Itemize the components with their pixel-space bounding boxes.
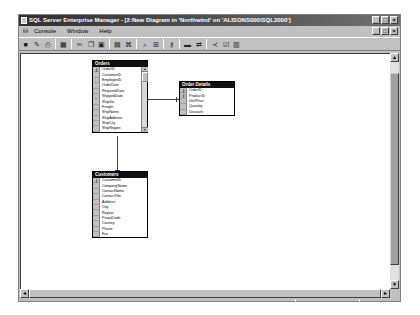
print-icon[interactable]: ⎙	[43, 40, 52, 49]
zoom-icon[interactable]: ⌕	[140, 40, 149, 49]
table-customers[interactable]: Customers⚷CustomerIDCompanyNameContactNa…	[92, 171, 148, 238]
table-view-icon[interactable]: ▬	[183, 40, 192, 49]
column-name: OrderDate	[102, 83, 119, 88]
column-name: OrderID	[189, 88, 202, 93]
column-name: CustomerID	[102, 73, 121, 78]
window-controls: _ □ ×	[372, 16, 398, 24]
table-orders[interactable]: Orders⚷OrderIDCustomerIDEmployeeIDOrderD…	[92, 60, 148, 133]
title-bar[interactable]: SQL Server Enterprise Manager - [2:New D…	[19, 15, 400, 26]
column-row[interactable]: Discount	[180, 110, 234, 115]
menu-console[interactable]: Console	[34, 26, 56, 36]
column-name: ShipVia	[102, 100, 114, 105]
table-scroll-down-button[interactable]: ▼	[142, 127, 148, 132]
menu-bar: ⛁ Console Window Help _ □ ×	[19, 26, 400, 36]
column-name: CompanyName	[102, 184, 127, 189]
column-row[interactable]: Fax	[93, 232, 147, 237]
horizontal-scroll-thumb[interactable]	[29, 289, 381, 298]
diagram-canvas[interactable]: Orders⚷OrderIDCustomerIDEmployeeIDOrderD…	[20, 53, 390, 289]
toolbar: ■✎⎙▦✂❐▣▤⌘⌕⊞⚷▬⇄≺☑▥	[19, 37, 400, 51]
column-name: RequiredDate	[102, 89, 124, 94]
table-scrollbar[interactable]: ▲▼	[141, 67, 147, 132]
menu-window[interactable]: Window	[67, 26, 88, 36]
toolbar-separator	[179, 39, 180, 49]
minimize-button[interactable]: _	[372, 16, 380, 24]
column-name: ShipRegion	[102, 126, 121, 131]
cut-icon[interactable]: ✂	[75, 40, 84, 49]
status-pane	[359, 299, 400, 302]
vertical-scrollbar[interactable]: ▲ ▼	[390, 53, 399, 289]
toolbar-separator	[71, 39, 72, 49]
scroll-right-button[interactable]: ►	[381, 289, 390, 298]
toolbar-separator	[206, 39, 207, 49]
row-selector[interactable]	[93, 232, 100, 237]
column-name: City	[102, 205, 108, 210]
column-name: Discount	[189, 110, 203, 115]
column-name: ProductID	[189, 94, 205, 99]
copy-icon[interactable]: ❐	[86, 40, 95, 49]
console-tree-icon[interactable]: ⛁	[23, 28, 31, 35]
table-order-details[interactable]: Order Details⚷OrderID⚷ProductIDUnitPrice…	[179, 81, 235, 116]
app-window: SQL Server Enterprise Manager - [2:New D…	[18, 14, 401, 302]
relationship-line-orders-customers[interactable]	[117, 136, 118, 174]
mdi-restore-button[interactable]: □	[381, 27, 389, 35]
column-name: Country	[102, 221, 115, 226]
column-name: Phone	[102, 227, 112, 232]
column-name: PostalCode	[102, 216, 121, 221]
window-title: SQL Server Enterprise Manager - [2:New D…	[29, 17, 291, 23]
column-name: ContactName	[102, 189, 124, 194]
paste-icon[interactable]: ▣	[97, 40, 106, 49]
column-list: ⚷CustomerIDCompanyNameContactNameContact…	[93, 178, 147, 237]
column-name: CustomerID	[102, 178, 121, 183]
column-name: ContactTitle	[102, 194, 121, 199]
mdi-controls: _ □ ×	[372, 27, 398, 35]
close-button[interactable]: ×	[390, 16, 398, 24]
scrollbar-corner	[390, 289, 399, 298]
column-row[interactable]: ShipRegion	[93, 126, 141, 131]
column-name: Fax	[102, 232, 108, 237]
column-name: OrderID	[102, 67, 115, 72]
column-name: Address	[102, 200, 115, 205]
column-list: ⚷OrderID⚷ProductIDUnitPriceQuantityDisco…	[180, 88, 234, 115]
row-selector[interactable]	[180, 110, 187, 115]
toolbar-separator	[136, 39, 137, 49]
save-icon[interactable]: ■	[21, 40, 30, 49]
column-name: ShipAddress	[102, 116, 122, 121]
column-name: Quantity	[189, 104, 202, 109]
toolbar-separator	[109, 39, 110, 49]
primary-key-icon[interactable]: ⚷	[167, 40, 176, 49]
new-table-icon[interactable]: ▦	[59, 40, 68, 49]
app-icon	[21, 17, 27, 24]
menu-help[interactable]: Help	[99, 26, 111, 36]
column-name: Freight	[102, 105, 113, 110]
add-related-tables-icon[interactable]: ⌘	[124, 40, 133, 49]
column-name: EmployeeID	[102, 78, 122, 83]
relationship-key-end	[176, 97, 177, 102]
text-annotation-icon[interactable]: ▥	[232, 40, 241, 49]
mdi-close-button[interactable]: ×	[390, 27, 398, 35]
add-table-icon[interactable]: ▤	[113, 40, 122, 49]
horizontal-scrollbar[interactable]: ◄ ►	[20, 289, 390, 298]
mdi-minimize-button[interactable]: _	[372, 27, 380, 35]
scroll-left-button[interactable]: ◄	[20, 289, 29, 298]
properties-icon[interactable]: ✎	[32, 40, 41, 49]
row-selector[interactable]	[93, 126, 100, 131]
toolbar-separator	[55, 39, 56, 49]
column-list: ⚷OrderIDCustomerIDEmployeeIDOrderDateReq…	[93, 67, 147, 132]
column-name: ShipCity	[102, 121, 115, 126]
column-name: ShippedDate	[102, 94, 123, 99]
scroll-down-button[interactable]: ▼	[390, 280, 399, 289]
column-name: Region	[102, 211, 113, 216]
status-bar	[19, 299, 400, 302]
status-pane	[295, 299, 359, 302]
manage-relationships-icon[interactable]: ⇄	[194, 40, 203, 49]
column-name: UnitPrice	[189, 99, 204, 104]
toolbar-separator	[163, 39, 164, 49]
scroll-up-button[interactable]: ▲	[390, 53, 399, 62]
arrange-tables-icon[interactable]: ⊞	[151, 40, 160, 49]
column-name: ShipName	[102, 110, 119, 115]
maximize-button[interactable]: □	[381, 16, 389, 24]
manage-indexes-icon[interactable]: ≺	[210, 40, 219, 49]
table-scroll-thumb[interactable]	[142, 72, 148, 82]
manage-constraints-icon[interactable]: ☑	[221, 40, 230, 49]
vertical-scroll-thumb[interactable]	[390, 73, 399, 265]
